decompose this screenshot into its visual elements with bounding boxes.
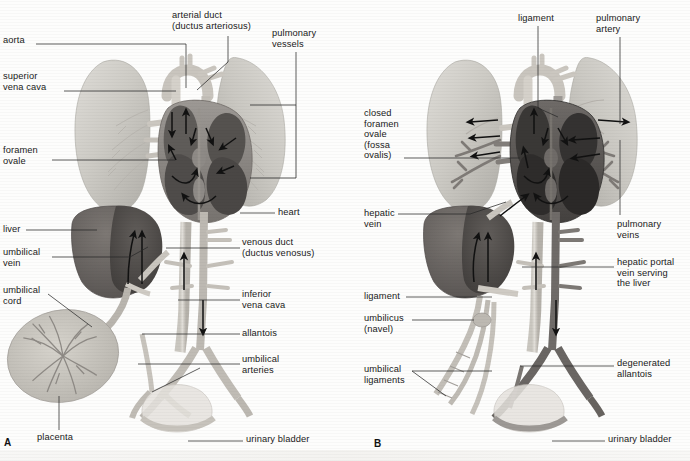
bottom-scan-band: [0, 450, 690, 461]
label-umbilical-arteries: umbilical arteries: [242, 354, 279, 375]
label-inferior-vena-cava: inferior vena cava: [242, 289, 285, 310]
label-pulmonary-veins: pulmonary veins: [617, 219, 661, 240]
left-lung-a: [75, 60, 150, 212]
label-hepatic-vein: hepatic vein: [364, 208, 395, 229]
label-venous-duct: venous duct (ductus venosus): [242, 237, 314, 258]
lumbar-branches-a: [166, 230, 232, 288]
label-pulmonary-artery: pulmonary artery: [596, 13, 640, 34]
label-placenta: placenta: [37, 432, 73, 443]
anatomy-artwork: [0, 0, 690, 461]
panel-b-artwork: [423, 56, 637, 432]
label-arterial-duct: arterial duct (ductus arteriosus): [172, 10, 251, 31]
allantois-a: [142, 334, 152, 392]
label-superior-vena-cava: superior vena cava: [3, 71, 46, 92]
liver-right-lobe-a: [110, 206, 162, 294]
label-urinary-bladder-a: urinary bladder: [246, 434, 310, 445]
figure-canvas: aorta superior vena cava foramen ovale l…: [0, 0, 690, 461]
label-aorta: aorta: [3, 35, 25, 46]
label-closed-foramen-ovale: closed foramen ovale (fossa ovalis): [364, 108, 399, 161]
label-umbilicus: umbilicus (navel): [364, 313, 404, 334]
umbilicus-b: [473, 313, 491, 327]
label-liver: liver: [3, 224, 21, 235]
label-hepatic-portal-vein: hepatic portal vein serving the liver: [617, 257, 674, 289]
label-degenerated-allantois: degenerated allantois: [617, 358, 670, 379]
label-urinary-bladder-b: urinary bladder: [608, 434, 672, 445]
label-foramen-ovale: foramen ovale: [3, 145, 38, 166]
lumbar-branches-b: [560, 230, 584, 288]
label-ligament-top: ligament: [518, 13, 554, 24]
label-allantois: allantois: [242, 328, 277, 339]
panel-letter-a: A: [4, 437, 11, 448]
label-pulmonary-vessels: pulmonary vessels: [272, 28, 316, 49]
label-umbilical-ligaments: umbilical ligaments: [364, 364, 405, 385]
label-ligament-left: ligament: [364, 291, 400, 302]
label-umbilical-vein: umbilical vein: [3, 247, 40, 268]
label-heart: heart: [278, 207, 300, 218]
label-umbilical-cord: umbilical cord: [3, 285, 40, 306]
panel-letter-b: B: [374, 438, 381, 449]
